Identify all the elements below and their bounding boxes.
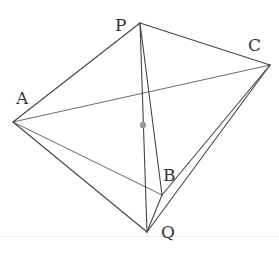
label-B: B: [163, 165, 176, 185]
edge-AB: [13, 122, 162, 195]
geometry-diagram: A P C B Q: [0, 0, 279, 255]
edge-AP: [13, 23, 140, 122]
edge-QC: [147, 65, 270, 232]
label-C: C: [248, 35, 261, 55]
label-A: A: [15, 88, 29, 108]
edge-BQ: [147, 195, 162, 232]
edge-BC: [162, 65, 270, 195]
label-P: P: [115, 15, 126, 35]
label-Q: Q: [161, 222, 175, 242]
midpoint-marker: [140, 122, 146, 128]
edge-AQ: [13, 122, 147, 232]
